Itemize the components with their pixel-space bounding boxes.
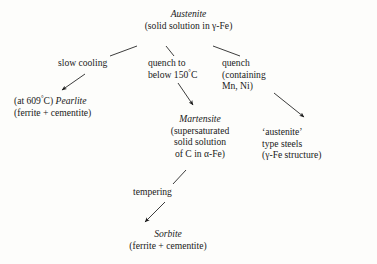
node-martensite-desc-line1: (supersaturated	[140, 125, 260, 137]
arrow-austenite-to-steels-upper	[213, 46, 240, 56]
node-martensite-title: Martensite	[140, 113, 260, 125]
edge-label-tempering: tempering	[133, 186, 172, 198]
node-pearlite-name: Pearlite	[56, 95, 87, 106]
arrow-austenite-to-pearlite	[62, 74, 85, 90]
node-austenite-type-steels-line3: (γ-Fe structure)	[262, 149, 321, 161]
edge-label-quench-150-temp: below 150	[148, 69, 188, 80]
edge-label-quench-150-unit: C	[191, 69, 197, 80]
node-austenite-title: Austenite	[0, 8, 377, 20]
edge-label-quench-mn-ni-line1: quench	[222, 57, 266, 69]
arrow-martensite-to-sorbite	[145, 202, 165, 222]
edge-label-quench-mn-ni-line2: (containing	[222, 69, 266, 81]
node-pearlite-temp-mid: C)	[44, 95, 56, 106]
arrow-austenite-to-pearlite-upper	[110, 46, 137, 56]
node-austenite-subtitle: (solid solution in γ-Fe)	[0, 20, 377, 32]
arrow-martensite-to-sorbite-upper	[173, 170, 186, 184]
arrow-austenite-to-steels	[274, 93, 304, 117]
node-sorbite: Sorbite (ferrite + cementite)	[88, 228, 248, 251]
node-austenite-type-steels: ‘austenite’ type steels (γ-Fe structure)	[262, 126, 321, 161]
edge-label-quench-150-line2: below 150°C	[148, 69, 197, 81]
node-martensite-desc-line2: solid solution	[140, 136, 260, 148]
node-austenite-type-steels-line1: ‘austenite’	[262, 126, 321, 138]
node-pearlite-title: (at 609°C) Pearlite	[14, 95, 91, 107]
node-pearlite: (at 609°C) Pearlite (ferrite + cementite…	[14, 95, 91, 118]
arrow-austenite-to-martensite-upper	[166, 46, 174, 56]
node-austenite: Austenite (solid solution in γ-Fe)	[0, 8, 377, 31]
node-sorbite-title: Sorbite	[88, 228, 248, 240]
node-pearlite-composition: (ferrite + cementite)	[14, 107, 91, 119]
edge-label-quench-mn-ni-line3: Mn, Ni)	[222, 80, 266, 92]
node-sorbite-composition: (ferrite + cementite)	[88, 240, 248, 252]
edge-label-quench-containing-mn-ni: quench (containing Mn, Ni)	[222, 57, 266, 92]
node-pearlite-temp-prefix: (at 609	[14, 95, 41, 106]
node-martensite: Martensite (supersaturated solid solutio…	[140, 113, 260, 159]
node-martensite-desc-line3: of C in α-Fe)	[140, 148, 260, 160]
edge-label-slow-cooling-line1: slow cooling	[58, 57, 107, 69]
arrow-austenite-to-martensite	[178, 83, 193, 105]
edge-label-slow-cooling: slow cooling	[58, 57, 107, 69]
edge-label-quench-to-below-150: quench to below 150°C	[148, 57, 197, 80]
transformation-diagram: Austenite (solid solution in γ-Fe) (at 6…	[0, 0, 377, 264]
node-austenite-type-steels-line2: type steels	[262, 138, 321, 150]
edge-label-tempering-line1: tempering	[133, 186, 172, 198]
